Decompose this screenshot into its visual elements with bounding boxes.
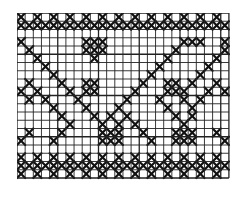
cross-stitch-chart	[17, 13, 231, 180]
stitch-grid	[17, 13, 231, 180]
